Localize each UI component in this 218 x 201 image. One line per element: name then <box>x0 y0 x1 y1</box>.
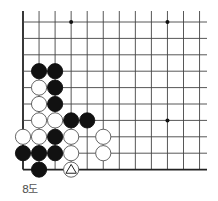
white-stone-icon <box>48 113 63 128</box>
black-stone <box>48 146 63 161</box>
white-stone <box>96 129 111 144</box>
white-stone <box>64 146 79 161</box>
black-stone-icon <box>48 80 63 95</box>
white-stone <box>64 162 79 177</box>
white-stone-icon <box>31 80 46 95</box>
black-stone <box>80 113 95 128</box>
white-stone <box>15 129 30 144</box>
white-stone <box>31 129 46 144</box>
go-board <box>0 0 218 201</box>
black-stone <box>48 80 63 95</box>
diagram-caption: 8도 <box>22 180 38 196</box>
white-stone-icon <box>96 146 111 161</box>
white-stone <box>64 129 79 144</box>
black-stone-icon <box>48 64 63 79</box>
black-stone-icon <box>48 129 63 144</box>
white-stone-icon <box>31 113 46 128</box>
black-stone-icon <box>31 146 46 161</box>
white-stone <box>96 146 111 161</box>
white-stone-icon <box>15 129 30 144</box>
black-stone-icon <box>31 64 46 79</box>
star-point-icon <box>165 20 169 24</box>
black-stone <box>31 162 46 177</box>
black-stone <box>64 113 79 128</box>
star-point-icon <box>69 20 73 24</box>
black-stone <box>31 146 46 161</box>
black-stone-icon <box>64 113 79 128</box>
star-point-icon <box>165 118 169 122</box>
black-stone-icon <box>15 146 30 161</box>
black-stone-icon <box>31 162 46 177</box>
black-stone-icon <box>80 113 95 128</box>
black-stone <box>48 96 63 111</box>
white-stone-icon <box>64 129 79 144</box>
white-stone <box>31 80 46 95</box>
white-stone-icon <box>64 146 79 161</box>
white-stone <box>48 113 63 128</box>
black-stone-icon <box>48 96 63 111</box>
black-stone <box>15 146 30 161</box>
black-stone <box>48 64 63 79</box>
white-stone <box>31 96 46 111</box>
white-stone-icon <box>31 129 46 144</box>
black-stone-icon <box>48 146 63 161</box>
white-stone-icon <box>96 129 111 144</box>
white-stone-icon <box>31 96 46 111</box>
white-stone <box>31 113 46 128</box>
black-stone <box>48 129 63 144</box>
black-stone <box>31 64 46 79</box>
